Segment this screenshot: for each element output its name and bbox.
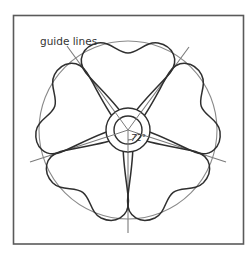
guide-lines-label: guide lines	[40, 35, 97, 47]
flower-diagram: 72° guide lines	[0, 0, 252, 254]
angle-label: 72°	[131, 133, 146, 143]
